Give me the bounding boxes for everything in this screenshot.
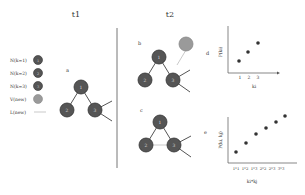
graph-b-new-node bbox=[179, 37, 193, 51]
legend: N(k=1) 1 N(k=2) 2 N(k=3) 3 V(new) L(new) bbox=[9, 56, 46, 116]
new-link bbox=[177, 50, 186, 65]
chart-e: e P(ki, kj) ki*kj 1*1 1*2 1*3 2*2 2*3 3*… bbox=[204, 114, 297, 184]
svg-text:1: 1 bbox=[80, 85, 83, 90]
svg-text:2: 2 bbox=[248, 75, 251, 80]
svg-text:1*1: 1*1 bbox=[233, 166, 240, 171]
svg-text:2: 2 bbox=[144, 78, 147, 83]
legend-new-node-icon bbox=[34, 95, 43, 104]
svg-text:3: 3 bbox=[94, 108, 97, 113]
svg-text:1*2: 1*2 bbox=[242, 166, 249, 171]
data-point bbox=[254, 132, 258, 136]
chart-d: d P(ki) ki 1 2 3 bbox=[206, 26, 280, 89]
svg-text:3: 3 bbox=[257, 75, 260, 80]
chart-e-xlabel: ki*kj bbox=[247, 179, 258, 184]
graph-b: 1 2 3 bbox=[138, 37, 193, 92]
svg-text:3: 3 bbox=[173, 143, 176, 148]
svg-text:2: 2 bbox=[37, 72, 39, 76]
data-point bbox=[246, 50, 250, 54]
chart-d-ylabel: P(ki) bbox=[218, 46, 223, 57]
svg-text:2*3: 2*3 bbox=[269, 166, 276, 171]
data-point bbox=[256, 41, 260, 45]
chart-e-ylabel: P(ki, kj) bbox=[218, 131, 223, 149]
data-point bbox=[234, 150, 238, 154]
legend-label-k1: N(k=1) bbox=[10, 58, 27, 63]
legend-label-k2: N(k=2) bbox=[10, 71, 27, 76]
data-point bbox=[283, 114, 287, 118]
panel-c-label: c bbox=[140, 107, 143, 113]
graph-c: 1 2 3 bbox=[139, 115, 191, 157]
graph-a: 1 2 3 bbox=[60, 80, 112, 121]
svg-text:3: 3 bbox=[37, 85, 39, 89]
svg-text:1*3: 1*3 bbox=[251, 166, 258, 171]
svg-text:3*3: 3*3 bbox=[278, 166, 285, 171]
panel-d-label: d bbox=[206, 50, 210, 56]
legend-label-k3: N(k=3) bbox=[10, 84, 27, 89]
panel-b-label: b bbox=[138, 40, 141, 46]
svg-text:2: 2 bbox=[66, 108, 69, 113]
svg-text:1: 1 bbox=[158, 55, 161, 60]
t2-title: t2 bbox=[166, 10, 174, 19]
legend-label-new-node: V(new) bbox=[9, 97, 26, 102]
panel-e-label: e bbox=[204, 129, 207, 135]
data-point bbox=[274, 120, 278, 124]
svg-text:1: 1 bbox=[159, 120, 162, 125]
t1-title: t1 bbox=[72, 10, 80, 19]
data-point bbox=[264, 126, 268, 130]
data-point bbox=[244, 141, 248, 145]
svg-text:1: 1 bbox=[239, 75, 242, 80]
panel-a-label: a bbox=[66, 67, 69, 73]
legend-label-new-link: L(new) bbox=[10, 110, 26, 115]
svg-text:2*2: 2*2 bbox=[260, 166, 267, 171]
svg-text:1: 1 bbox=[37, 59, 39, 63]
data-point bbox=[237, 59, 241, 63]
svg-text:3: 3 bbox=[172, 78, 175, 83]
svg-text:2: 2 bbox=[145, 143, 148, 148]
chart-d-xlabel: ki bbox=[252, 84, 257, 89]
diagram-root: t1 t2 N(k=1) 1 N(k=2) 2 N(k=3) 3 V(new) … bbox=[0, 0, 305, 195]
